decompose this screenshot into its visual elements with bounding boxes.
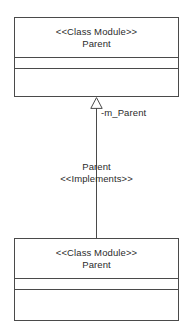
class-stereotype: <<Class Module>> (56, 247, 137, 259)
class-name: Parent (82, 259, 111, 271)
class-stereotype: <<Class Module>> (56, 26, 137, 38)
uml-class-diagram: <<Class Module>> Parent -m_Parent Parent… (0, 0, 193, 329)
class-box-parent[interactable]: <<Class Module>> Parent (14, 17, 179, 97)
class-attributes-compartment (15, 279, 178, 290)
class-header-child: <<Class Module>> Parent (15, 239, 178, 279)
class-box-child[interactable]: <<Class Module>> Parent (14, 238, 179, 321)
class-operations-compartment (15, 290, 178, 320)
association-label-block: Parent <<Implements>> (0, 161, 193, 185)
class-operations-compartment (15, 69, 178, 96)
class-header-parent: <<Class Module>> Parent (15, 18, 178, 58)
association-stereotype: <<Implements>> (0, 173, 193, 185)
association-name: Parent (0, 161, 193, 173)
class-attributes-compartment (15, 58, 178, 69)
association-role-label: -m_Parent (101, 107, 146, 119)
class-name: Parent (82, 38, 111, 50)
